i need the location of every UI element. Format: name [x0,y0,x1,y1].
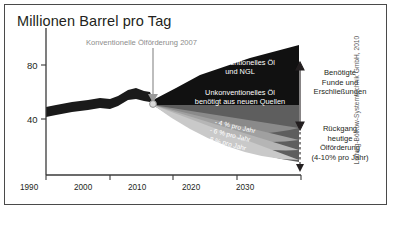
band-label-line-1: Unkonventionelles Öl [182,88,298,97]
x-tick-label-2030: 2030 [236,183,254,192]
needed-line-1: Benötigte [307,68,373,78]
decline-line-4: (4-10% pro Jahr) [303,153,377,163]
source-credit: Ludwig-Bölkow-Systemtechnik GmbH, 2010 [353,35,360,165]
band-label-new-sources: Unkonventionelles Öl benötigt aus neuen … [182,88,298,106]
page-title: Millionen Barrel pro Tag [17,13,171,29]
y-tick-label-40: 40 [27,114,38,125]
label-needed-discoveries: Benötigte Funde und Erschließungen [307,68,373,97]
decline-line-2: heutige [303,134,377,144]
x-tick-label-2000: 2000 [74,183,92,192]
y-tick-label-80: 80 [27,60,38,71]
x-tick-label-2020: 2020 [182,183,200,192]
y-axis-ticks [41,65,46,119]
band-label-line-2: benötigt aus neuen Quellen [182,97,298,106]
needed-line-3: Erschließungen [307,87,373,97]
decline-line-3: Ölförderung [303,143,377,153]
needed-line-2: Funde und [307,78,373,88]
chart-canvas [0,0,399,226]
chart-figure: Millionen Barrel pro Tag Konventionelle … [0,0,399,226]
x-axis-ticks [46,175,301,180]
x-tick-label-2010: 2010 [128,183,146,192]
band-label-line-1: Unkonventionelles Öl [186,58,294,67]
band-label-unconventional-ngl: Unkonventionelles Öl und NGL [186,58,294,76]
x-tick-label-1990: 1990 [20,183,38,192]
callout-2007-label: Konventionelle Ölförderung 2007 [86,38,197,47]
decline-line-1: Rückgang [303,124,377,134]
label-production-decline: Rückgang heutige Ölförderung (4-10% pro … [303,124,377,163]
band-label-line-2: und NGL [186,67,294,76]
